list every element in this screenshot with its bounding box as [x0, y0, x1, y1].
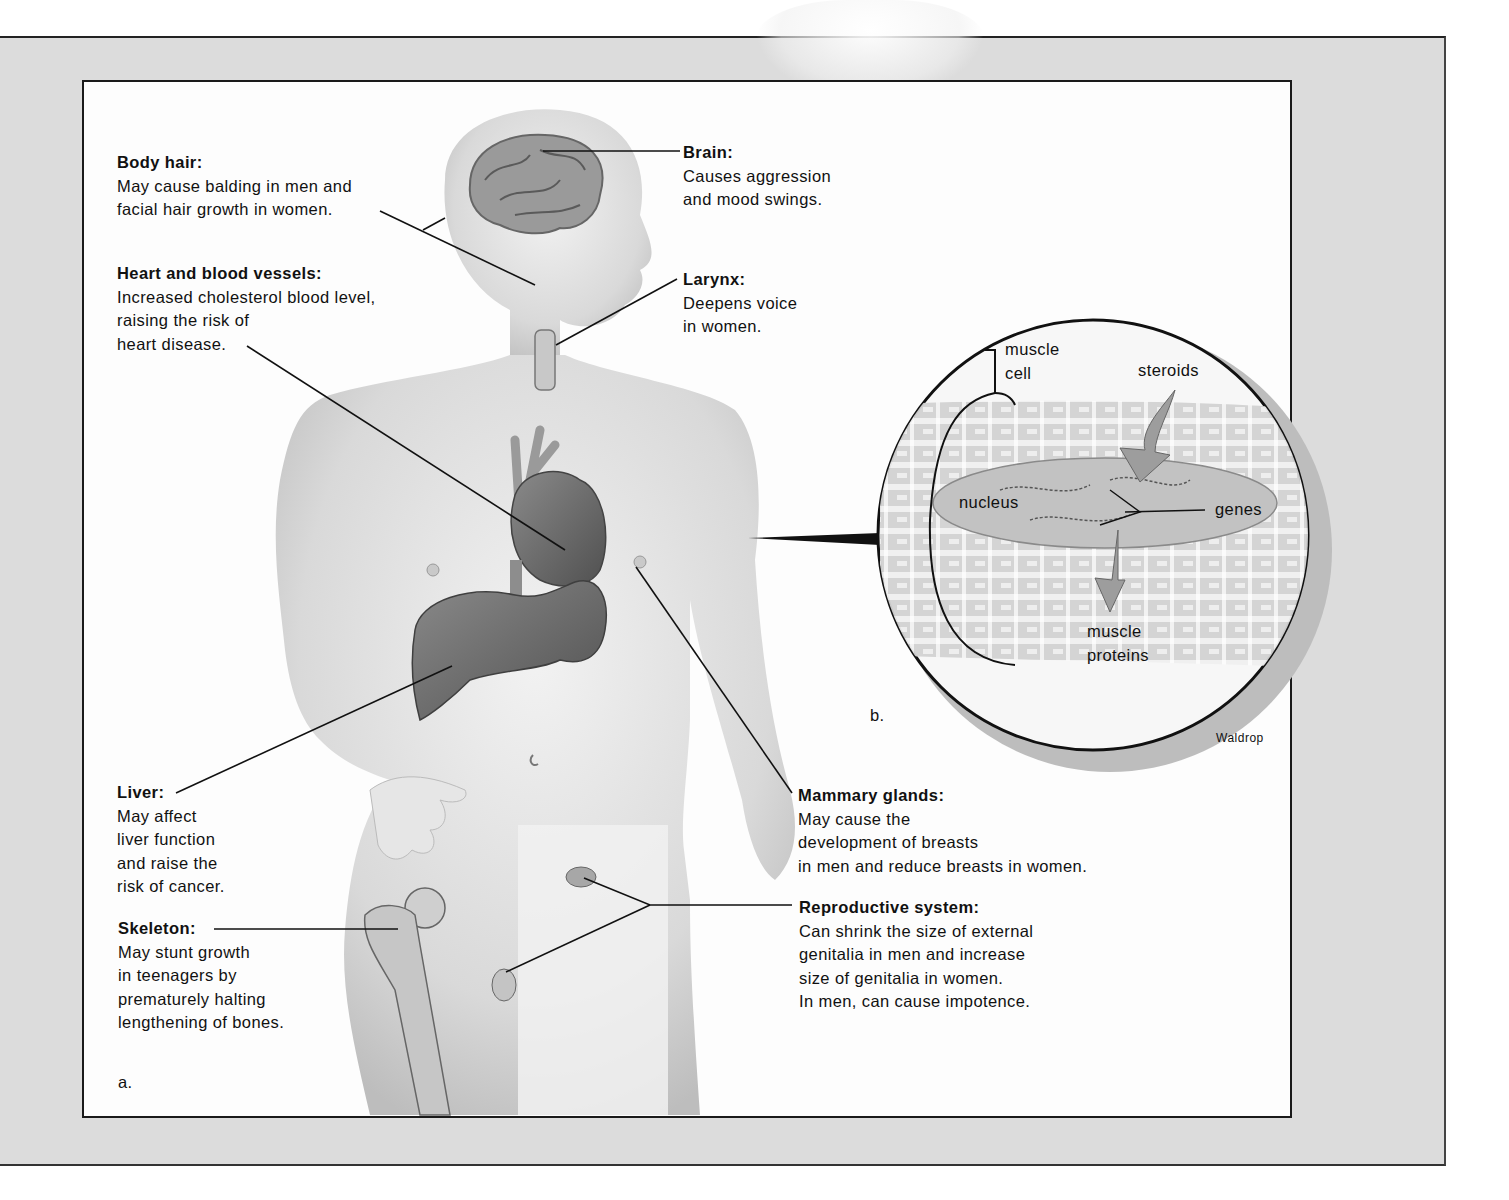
callout-liver: Liver: May affect liver function and rai…	[117, 781, 225, 899]
callout-text: liver function	[117, 828, 225, 852]
callout-body-hair: Body hair: May cause balding in men and …	[117, 151, 352, 222]
callout-title: Reproductive system:	[799, 896, 1033, 920]
inset-label-steroids: steroids	[1138, 361, 1199, 380]
callout-reproductive-system: Reproductive system: Can shrink the size…	[799, 896, 1033, 1014]
callout-text: prematurely halting	[118, 988, 284, 1012]
callout-title: Body hair:	[117, 151, 352, 175]
callout-text: Increased cholesterol blood level,	[117, 286, 376, 310]
callout-text: May cause the	[798, 808, 1087, 832]
callout-text: in teenagers by	[118, 964, 284, 988]
inset-label-muscle-proteins: muscle proteins	[1087, 620, 1149, 667]
inset-label-nucleus: nucleus	[959, 493, 1019, 512]
callout-text: risk of cancer.	[117, 875, 225, 899]
callout-text: Causes aggression	[683, 165, 831, 189]
callout-text: heart disease.	[117, 333, 376, 357]
callout-brain: Brain: Causes aggression and mood swings…	[683, 141, 831, 212]
callout-mammary-glands: Mammary glands: May cause the developmen…	[798, 784, 1087, 878]
muscle-cell-inset	[878, 320, 1332, 772]
brain-illustration	[470, 135, 603, 233]
callout-title: Larynx:	[683, 268, 797, 292]
callout-title: Liver:	[117, 781, 225, 805]
callout-text: lengthening of bones.	[118, 1011, 284, 1035]
callout-text: Deepens voice	[683, 292, 797, 316]
callout-heart: Heart and blood vessels: Increased chole…	[117, 262, 376, 356]
callout-text: size of genitalia in women.	[799, 967, 1033, 991]
callout-text: and mood swings.	[683, 188, 831, 212]
callout-text: May stunt growth	[118, 941, 284, 965]
callout-text: in women.	[683, 315, 797, 339]
inset-label-genes: genes	[1215, 500, 1262, 519]
larynx-illustration	[535, 330, 555, 390]
inset-label-muscle-cell: muscle cell	[1005, 338, 1060, 385]
panel-label-b: b.	[870, 706, 885, 725]
callout-text: genitalia in men and increase	[799, 943, 1033, 967]
ovary-illustration	[566, 867, 596, 887]
callout-title: Skeleton:	[118, 917, 284, 941]
genitalia-illustration	[492, 969, 516, 1001]
illustrator-credit: Waldrop	[1216, 731, 1264, 745]
callout-title: Heart and blood vessels:	[117, 262, 376, 286]
callout-skeleton: Skeleton: May stunt growth in teenagers …	[118, 917, 284, 1035]
callout-title: Brain:	[683, 141, 831, 165]
inset-connector	[748, 533, 880, 545]
callout-text: development of breasts	[798, 831, 1087, 855]
callout-text: in men and reduce breasts in women.	[798, 855, 1087, 879]
callout-text: In men, can cause impotence.	[799, 990, 1033, 1014]
callout-title: Mammary glands:	[798, 784, 1087, 808]
callout-text: May affect	[117, 805, 225, 829]
callout-text: facial hair growth in women.	[117, 198, 352, 222]
inset-label-text: proteins	[1087, 644, 1149, 668]
callout-text: Can shrink the size of external	[799, 920, 1033, 944]
inset-label-text: muscle	[1005, 338, 1060, 362]
inset-label-text: muscle	[1087, 620, 1149, 644]
callout-text: raising the risk of	[117, 309, 376, 333]
callout-text: and raise the	[117, 852, 225, 876]
callout-text: May cause balding in men and	[117, 175, 352, 199]
inset-label-text: cell	[1005, 362, 1060, 386]
callout-larynx: Larynx: Deepens voice in women.	[683, 268, 797, 339]
panel-label-a: a.	[118, 1073, 133, 1092]
